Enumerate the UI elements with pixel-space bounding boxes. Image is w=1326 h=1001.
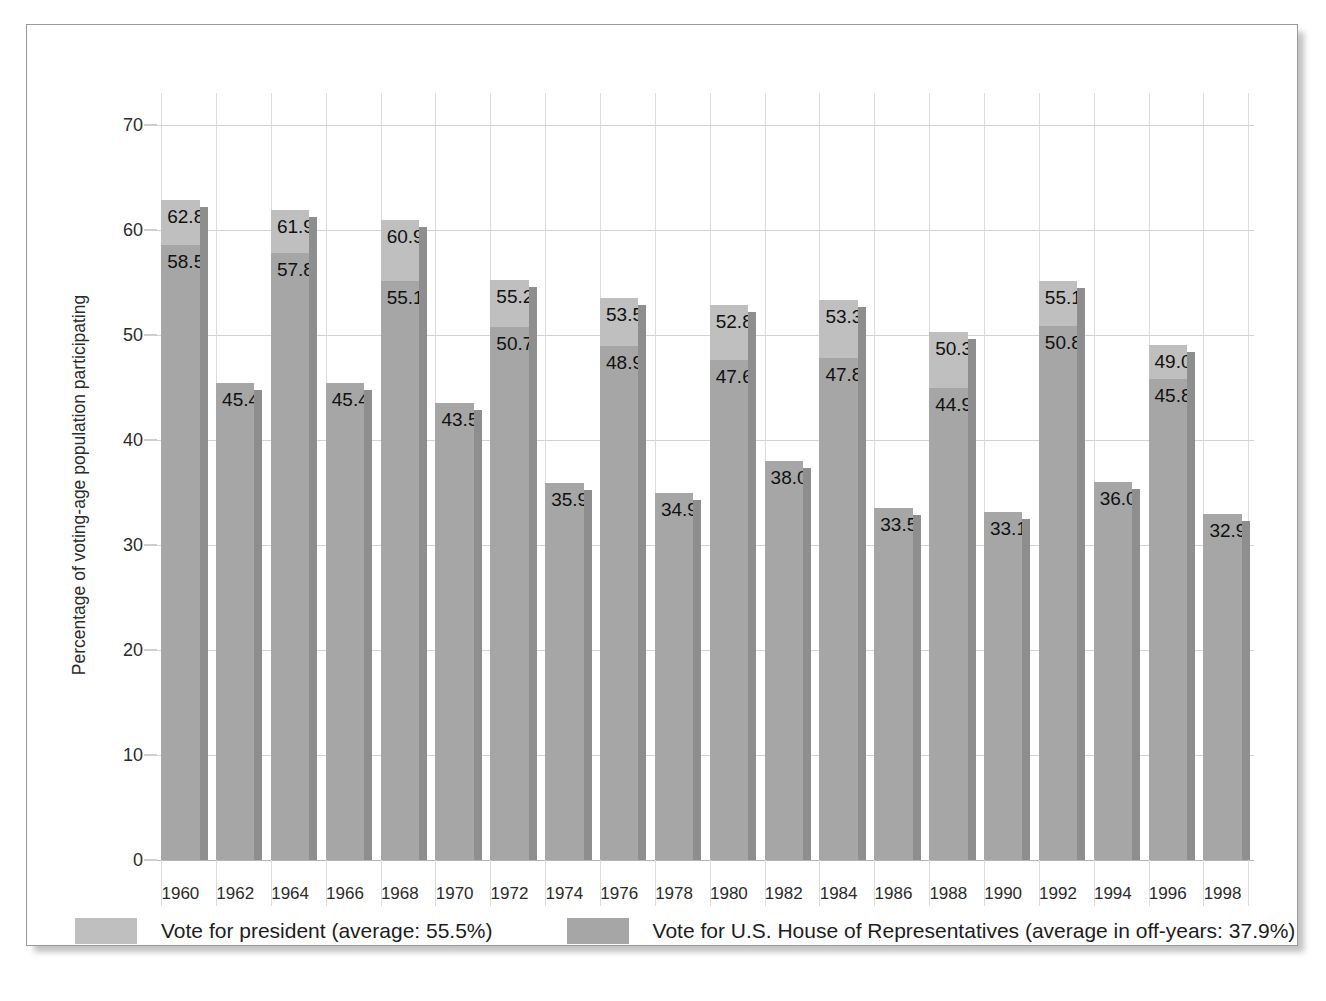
segment-house: 33.5 [874, 508, 912, 860]
legend-swatch-president [75, 918, 137, 944]
bar-side-shadow [913, 515, 921, 860]
bar-1970[interactable]: 43.5 [435, 93, 473, 860]
bar-side-shadow [419, 227, 427, 860]
segment-president: 50.3 [929, 332, 967, 389]
y-tick-label-40: 40 [123, 429, 143, 450]
bar-1980[interactable]: 52.847.6 [710, 93, 748, 860]
y-tick-label-50: 50 [123, 324, 143, 345]
segment-president: 53.3 [819, 300, 857, 358]
bar-side-shadow [803, 468, 811, 860]
bar-stack: 61.957.8 [271, 210, 309, 860]
bar-side-shadow [1077, 288, 1085, 860]
bar-1960[interactable]: 62.858.5 [161, 93, 199, 860]
legend-item-house[interactable]: Vote for U.S. House of Representatives (… [567, 918, 1296, 944]
x-tick-label-1968: 1968 [381, 884, 419, 904]
bar-side-shadow [200, 207, 208, 860]
gridline-0 [157, 860, 1254, 861]
y-tick-mark-0 [144, 860, 157, 861]
bar-stack: 55.250.7 [490, 280, 528, 860]
bar-1964[interactable]: 61.957.8 [271, 93, 309, 860]
x-tick-label-1966: 1966 [326, 884, 364, 904]
segment-president: 60.9 [381, 220, 419, 281]
segment-house: 57.8 [271, 253, 309, 860]
y-tick-label-30: 30 [123, 534, 143, 555]
x-tick-label-1974: 1974 [545, 884, 583, 904]
x-tick-label-1978: 1978 [655, 884, 693, 904]
legend-label-house: Vote for U.S. House of Representatives (… [653, 919, 1296, 943]
segment-house: 50.7 [490, 327, 528, 860]
bar-1990[interactable]: 33.1 [984, 93, 1022, 860]
bar-1982[interactable]: 38.0 [765, 93, 803, 860]
gridline-40 [157, 440, 1254, 441]
x-tick-label-1992: 1992 [1039, 884, 1077, 904]
gridline-20 [157, 650, 1254, 651]
x-tick-label-1988: 1988 [929, 884, 967, 904]
figure-frame: Percentage of voting-age population part… [26, 24, 1298, 946]
bar-1988[interactable]: 50.344.9 [929, 93, 967, 860]
segment-president: 52.8 [710, 305, 748, 360]
x-tick-label-1990: 1990 [984, 884, 1022, 904]
bar-1978[interactable]: 34.9 [655, 93, 693, 860]
bar-1994[interactable]: 36.0 [1094, 93, 1132, 860]
bar-side-shadow [858, 307, 866, 860]
y-axis-title: Percentage of voting-age population part… [69, 295, 90, 675]
bar-side-shadow [309, 217, 317, 860]
legend-swatch-house [567, 918, 629, 944]
segment-house: 35.9 [545, 483, 583, 860]
segment-house: 55.1 [381, 281, 419, 860]
plot-area: 010203040506070 62.858.545.461.957.845.4… [157, 93, 1254, 860]
x-tick-label-1982: 1982 [765, 884, 803, 904]
bar-stack: 36.0 [1094, 482, 1132, 860]
y-tick-label-60: 60 [123, 219, 143, 240]
bar-stack: 62.858.5 [161, 200, 199, 860]
x-tick-label-1984: 1984 [820, 884, 858, 904]
segment-house: 44.9 [929, 388, 967, 860]
y-tick-label-10: 10 [123, 744, 143, 765]
bar-stack: 45.4 [216, 383, 254, 860]
bar-stack: 33.5 [874, 508, 912, 860]
bar-1976[interactable]: 53.548.9 [600, 93, 638, 860]
bar-1998[interactable]: 32.9 [1203, 93, 1241, 860]
segment-house: 45.4 [216, 383, 254, 860]
y-tick-label-0: 0 [133, 850, 143, 871]
bar-1968[interactable]: 60.955.1 [381, 93, 419, 860]
segment-president: 62.8 [161, 200, 199, 245]
y-tick-mark-60 [144, 229, 157, 230]
legend-item-president[interactable]: Vote for president (average: 55.5%) [75, 918, 493, 944]
bar-stack: 60.955.1 [381, 220, 419, 860]
bar-side-shadow [1242, 521, 1250, 860]
x-tick-label-1970: 1970 [436, 884, 474, 904]
bar-1972[interactable]: 55.250.7 [490, 93, 528, 860]
bar-stack: 45.4 [326, 383, 364, 860]
bar-1992[interactable]: 55.150.8 [1039, 93, 1077, 860]
segment-house: 45.4 [326, 383, 364, 860]
bar-stack: 53.548.9 [600, 298, 638, 860]
bar-side-shadow [748, 312, 756, 860]
y-tick-label-70: 70 [123, 114, 143, 135]
bar-1966[interactable]: 45.4 [326, 93, 364, 860]
bar-1962[interactable]: 45.4 [216, 93, 254, 860]
x-tick-label-1994: 1994 [1094, 884, 1132, 904]
y-tick-mark-70 [144, 124, 157, 125]
bar-1974[interactable]: 35.9 [545, 93, 583, 860]
legend-label-president: Vote for president (average: 55.5%) [161, 919, 493, 943]
bar-1996[interactable]: 49.045.8 [1149, 93, 1187, 860]
bar-1984[interactable]: 53.347.8 [819, 93, 857, 860]
segment-house: 43.5 [435, 403, 473, 860]
bar-side-shadow [1187, 352, 1195, 860]
bar-stack: 33.1 [984, 512, 1022, 860]
gridline-10 [157, 755, 1254, 756]
segment-president: 53.5 [600, 298, 638, 346]
y-tick-mark-30 [144, 544, 157, 545]
segment-president: 49.0 [1149, 345, 1187, 379]
bar-stack: 53.347.8 [819, 300, 857, 860]
bar-side-shadow [968, 339, 976, 860]
bar-1986[interactable]: 33.5 [874, 93, 912, 860]
bar-stack: 43.5 [435, 403, 473, 860]
segment-house: 48.9 [600, 346, 638, 860]
segment-house: 38.0 [765, 461, 803, 860]
bar-side-shadow [693, 500, 701, 860]
bar-stack: 52.847.6 [710, 305, 748, 860]
x-tick-label-1972: 1972 [491, 884, 529, 904]
x-tick-label-1996: 1996 [1149, 884, 1187, 904]
